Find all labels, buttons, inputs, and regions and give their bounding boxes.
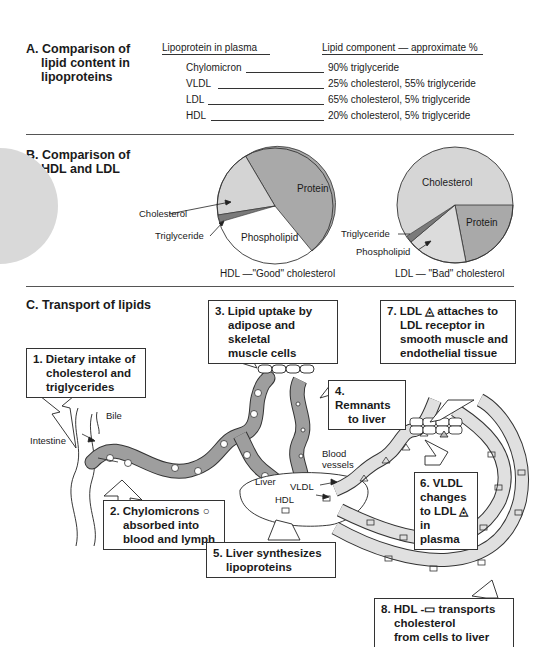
label-liver: Liver (255, 476, 276, 487)
step-line: 2. Chylomicrons ○ (110, 505, 210, 517)
step-line: LDL receptor in (387, 318, 509, 332)
step-line: changes (420, 491, 467, 503)
label-bile: Bile (106, 410, 122, 421)
step-line: 1. Dietary intake of (33, 353, 135, 365)
step-line: 8. HDL -▭ transports (381, 603, 495, 615)
label-intestine: Intestine (30, 435, 66, 446)
step-6-box: 6. VLDL changes to LDL ◬ in plasma (414, 472, 478, 550)
step-line: 6. VLDL (420, 477, 463, 489)
step-line: to liver (335, 412, 399, 426)
step-line: 7. LDL ◬ attaches to (387, 305, 498, 317)
step-line: muscle cells (215, 346, 331, 360)
muscle-cells (258, 365, 314, 373)
step-1-box: 1. Dietary intake of cholesterol and tri… (26, 348, 146, 398)
step-line: lipoproteins (213, 560, 329, 574)
label-blood-vessels: Blood vessels (322, 448, 354, 470)
step-8-box: 8. HDL -▭ transports cholesterol from ce… (374, 598, 514, 647)
step-line: cholesterol (381, 616, 507, 630)
step-5-box: 5. Liver synthesizes lipoproteins (206, 542, 336, 578)
step-3-box: 3. Lipid uptake by adipose and skeletal … (208, 300, 338, 364)
step-line: smooth muscle and (387, 332, 509, 346)
label-blood-vessels-line: vessels (322, 459, 354, 470)
step-line: endothelial tissue (387, 346, 509, 360)
step-line: 4. Remnants (335, 385, 391, 411)
step-line: in plasma (420, 519, 460, 545)
label-blood-vessels-line: Blood (322, 448, 346, 459)
step-line: 5. Liver synthesizes (213, 547, 322, 559)
step-line: triglycerides (33, 380, 139, 394)
step-line: 3. Lipid uptake by (215, 305, 312, 317)
step-line: from cells to liver (381, 630, 507, 644)
step-line: adipose and skeletal (215, 318, 331, 346)
step-line: to LDL ◬ (420, 505, 468, 517)
step-line: cholesterol and (33, 366, 139, 380)
step-line: blood and lymph (110, 532, 218, 546)
label-vldl: VLDL (290, 481, 314, 492)
label-hdl: HDL (275, 494, 294, 505)
step-7-box: 7. LDL ◬ attaches to LDL receptor in smo… (380, 300, 516, 364)
step-line: absorbed into (110, 518, 218, 532)
step-4-box: 4. Remnants to liver (328, 380, 406, 430)
